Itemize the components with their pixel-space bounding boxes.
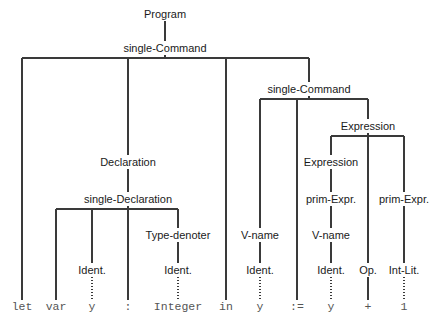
tree-node-vname-2: V-name [310, 229, 352, 241]
tree-node-prim-expr-l: prim-Expr. [304, 193, 358, 205]
tree-node-ident-type: Ident. [162, 264, 194, 276]
tree-node-type-denoter: Type-denoter [144, 229, 213, 241]
tree-node-declaration: Declaration [98, 156, 158, 168]
terminal-t-integer: Integer [154, 301, 202, 313]
tree-node-prim-expr-r: prim-Expr. [377, 193, 431, 205]
tree-node-single-decl: single-Declaration [82, 193, 174, 205]
terminal-t-y1: y [89, 301, 96, 313]
tree-node-op: Op. [357, 264, 379, 276]
tree-node-expr-inner: Expression [302, 156, 360, 168]
tree-node-sc-root: single-Command [121, 42, 208, 54]
tree-node-program: Program [142, 8, 188, 20]
tree-node-vname-1: V-name [239, 229, 281, 241]
terminal-t-let: let [12, 301, 33, 313]
terminal-t-y2: y [257, 301, 264, 313]
tree-node-ident-rhs: Ident. [315, 264, 347, 276]
terminal-t-var: var [46, 301, 67, 313]
terminal-t-one: 1 [401, 301, 408, 313]
terminal-t-colon: : [125, 301, 132, 313]
tree-node-expr-outer: Expression [339, 120, 397, 132]
syntax-tree-canvas [0, 0, 441, 326]
tree-node-ident-lhs: Ident. [244, 264, 276, 276]
terminal-t-assign: := [290, 301, 304, 313]
tree-node-sc-right: single-Command [265, 83, 352, 95]
terminal-t-plus: + [365, 301, 372, 313]
tree-node-ident-var: Ident. [76, 264, 108, 276]
terminal-t-y3: y [328, 301, 335, 313]
terminal-t-in: in [219, 301, 233, 313]
tree-node-int-lit: Int-Lit. [387, 264, 422, 276]
